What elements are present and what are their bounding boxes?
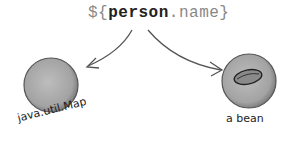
bean-label: a bean	[226, 112, 264, 125]
arrow-to-map-icon	[87, 30, 132, 68]
bean-sphere-icon	[222, 54, 276, 108]
arrow-to-bean-icon	[148, 30, 222, 76]
